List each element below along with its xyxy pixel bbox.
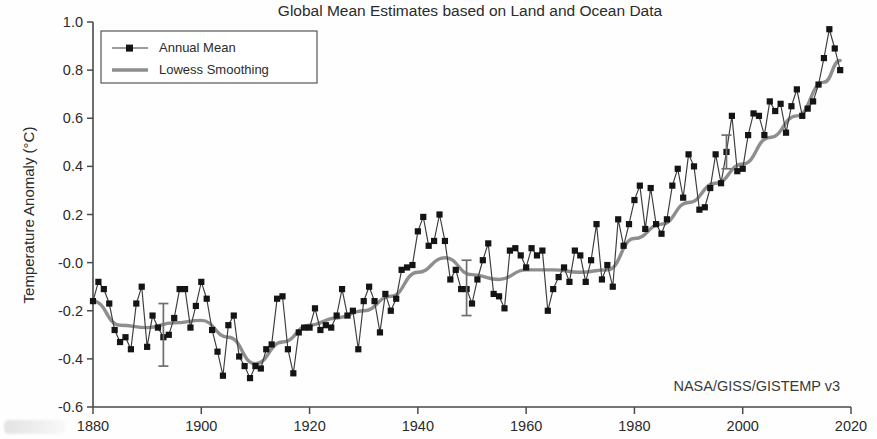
- data-point-marker: [166, 332, 172, 338]
- data-point-marker: [388, 308, 394, 314]
- data-point-marker: [566, 279, 572, 285]
- data-point-marker: [122, 334, 128, 340]
- data-point-marker: [621, 243, 627, 249]
- data-point-marker: [323, 322, 329, 328]
- data-point-marker: [745, 132, 751, 138]
- data-point-marker: [815, 81, 821, 87]
- data-point-marker: [599, 276, 605, 282]
- data-point-marker: [355, 346, 361, 352]
- data-point-marker: [90, 298, 96, 304]
- data-point-marker: [274, 296, 280, 302]
- data-point-marker: [279, 293, 285, 299]
- data-point-marker: [258, 365, 264, 371]
- lowess-smoothing-line: [93, 61, 840, 364]
- data-point-marker: [198, 279, 204, 285]
- data-point-marker: [539, 247, 545, 253]
- x-axis-ticks: 18801900192019401960198020002020: [77, 407, 867, 434]
- data-point-marker: [301, 324, 307, 330]
- data-point-marker: [193, 303, 199, 309]
- data-point-marker: [236, 353, 242, 359]
- data-point-marker: [312, 305, 318, 311]
- data-point-marker: [767, 98, 773, 104]
- x-tick-label: 1900: [185, 418, 217, 434]
- x-tick-label: 2000: [727, 418, 759, 434]
- data-point-marker: [788, 103, 794, 109]
- data-point-marker: [669, 183, 675, 189]
- data-point-marker: [821, 55, 827, 61]
- data-point-marker: [377, 329, 383, 335]
- data-point-marker: [290, 370, 296, 376]
- scan-artifact: [4, 420, 66, 434]
- data-point-marker: [593, 221, 599, 227]
- data-point-marker: [447, 276, 453, 282]
- data-point-marker: [344, 312, 350, 318]
- x-tick-label: 1980: [618, 418, 650, 434]
- data-point-marker: [225, 322, 231, 328]
- data-point-marker: [296, 329, 302, 335]
- data-point-marker: [350, 308, 356, 314]
- data-point-marker: [187, 324, 193, 330]
- data-point-marker: [204, 296, 210, 302]
- data-point-marker: [734, 168, 740, 174]
- data-point-marker: [805, 106, 811, 112]
- data-point-marker: [155, 324, 161, 330]
- data-point-marker: [740, 166, 746, 172]
- data-point-marker: [648, 185, 654, 191]
- data-point-marker: [285, 346, 291, 352]
- chart-legend: Annual MeanLowess Smoothing: [101, 31, 317, 83]
- data-point-marker: [756, 113, 762, 119]
- data-point-marker: [149, 312, 155, 318]
- data-point-marker: [664, 216, 670, 222]
- y-tick-label: -0.2: [58, 303, 83, 319]
- data-point-marker: [431, 238, 437, 244]
- data-point-marker: [702, 204, 708, 210]
- data-point-marker: [637, 183, 643, 189]
- data-point-marker: [761, 132, 767, 138]
- data-point-marker: [269, 341, 275, 347]
- y-axis-label: Temperature Anomaly (°C): [20, 127, 37, 304]
- y-tick-label: 0.8: [63, 62, 83, 78]
- data-point-marker: [810, 98, 816, 104]
- data-point-marker: [772, 108, 778, 114]
- data-point-marker: [144, 344, 150, 350]
- data-point-marker: [826, 26, 832, 32]
- data-point-marker: [177, 286, 183, 292]
- y-tick-label: -0.4: [58, 351, 83, 367]
- data-point-marker: [426, 243, 432, 249]
- data-point-marker: [242, 363, 248, 369]
- data-point-marker: [393, 296, 399, 302]
- data-point-marker: [512, 245, 518, 251]
- data-point-marker: [334, 312, 340, 318]
- data-point-marker: [101, 286, 107, 292]
- y-axis-ticks: 1.00.80.60.40.2-0.0-0.2-0.4-0.6: [58, 14, 93, 415]
- data-point-marker: [696, 207, 702, 213]
- x-tick-label: 1960: [510, 418, 542, 434]
- data-point-marker: [561, 264, 567, 270]
- x-tick-label: 1880: [77, 418, 109, 434]
- data-point-marker: [496, 293, 502, 299]
- data-point-marker: [415, 228, 421, 234]
- data-point-marker: [718, 180, 724, 186]
- data-point-marker: [231, 312, 237, 318]
- data-point-marker: [371, 298, 377, 304]
- data-point-marker: [474, 276, 480, 282]
- data-point-marker: [469, 300, 475, 306]
- data-point-marker: [572, 247, 578, 253]
- legend-marker-annual-mean: [126, 45, 133, 52]
- data-point-marker: [112, 327, 118, 333]
- x-tick-label: 2020: [835, 418, 867, 434]
- data-point-marker: [252, 363, 258, 369]
- data-point-marker: [182, 286, 188, 292]
- data-point-marker: [631, 197, 637, 203]
- data-point-marker: [518, 252, 524, 258]
- data-point-marker: [263, 346, 269, 352]
- data-point-marker: [528, 245, 534, 251]
- y-tick-label: 1.0: [63, 14, 83, 30]
- legend-label-lowess-smoothing: Lowess Smoothing: [159, 62, 269, 77]
- data-point-marker: [366, 284, 372, 290]
- data-point-marker: [420, 214, 426, 220]
- data-point-marker: [799, 113, 805, 119]
- data-point-marker: [658, 231, 664, 237]
- data-point-marker: [209, 327, 215, 333]
- data-point-marker: [133, 300, 139, 306]
